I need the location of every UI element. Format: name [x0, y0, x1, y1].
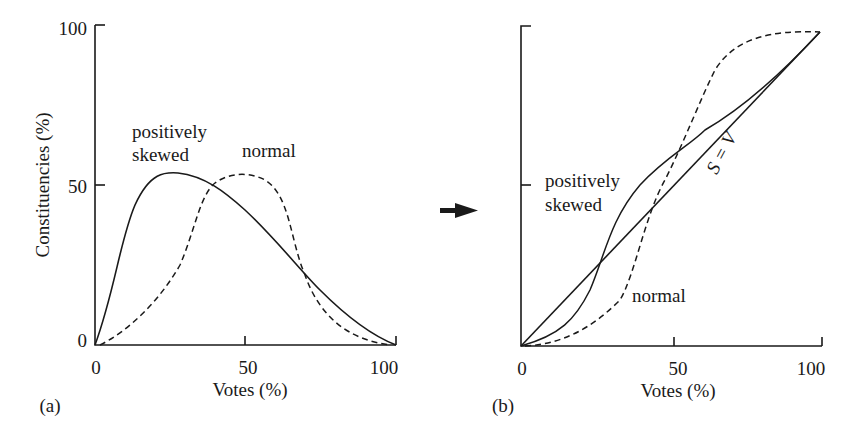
- skewed-curve-a: [95, 173, 396, 345]
- y-axis-label-a: Constituencies (%): [32, 112, 54, 257]
- panel-a-axes: [95, 25, 396, 345]
- panel-label-b: (b): [492, 395, 514, 417]
- y-tick-label-0: 0: [78, 330, 88, 351]
- panel-a: 100 50 0 0 50 100 Votes (%) Constituenci…: [32, 18, 398, 417]
- y-tick-label-50: 50: [68, 176, 87, 197]
- skewed-label-b-line1: positively: [545, 170, 620, 191]
- normal-label-b: normal: [632, 285, 686, 306]
- panel-b: 0 50 100 Votes (%) (b) positively skewed…: [492, 26, 825, 417]
- x-tick-label-100-b: 100: [797, 358, 826, 379]
- s-equals-v-label: S = V: [702, 127, 742, 177]
- figure: 100 50 0 0 50 100 Votes (%) Constituenci…: [0, 0, 858, 442]
- skewed-label-a-line2: skewed: [132, 144, 189, 165]
- right-arrow-icon: [440, 203, 478, 218]
- y-tick-label-100: 100: [59, 18, 88, 39]
- x-axis-label-a: Votes (%): [212, 379, 287, 401]
- x-tick-label-100: 100: [370, 357, 399, 378]
- skewed-label-a-line1: positively: [132, 121, 207, 142]
- normal-curve-a: [100, 174, 390, 345]
- x-tick-label-50-b: 50: [669, 358, 688, 379]
- x-tick-label-0: 0: [91, 357, 101, 378]
- skewed-label-b-line2: skewed: [545, 194, 602, 215]
- x-tick-label-50: 50: [239, 357, 258, 378]
- panel-label-a: (a): [39, 395, 60, 417]
- normal-label-a: normal: [242, 140, 296, 161]
- x-tick-label-0-b: 0: [517, 358, 527, 379]
- x-axis-label-b: Votes (%): [640, 380, 715, 402]
